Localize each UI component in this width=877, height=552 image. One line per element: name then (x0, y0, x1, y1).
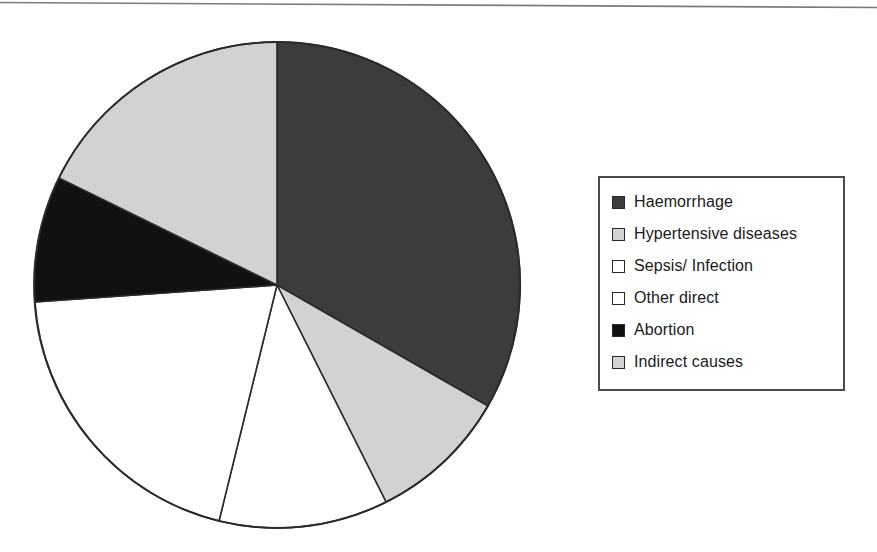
pie-slices (34, 42, 520, 528)
legend-label-sepsis-infection: Sepsis/ Infection (634, 258, 753, 274)
legend-swatch-haemorrhage (612, 196, 625, 209)
legend-item-other-direct[interactable]: Other direct (612, 282, 843, 314)
legend-label-indirect-causes: Indirect causes (634, 354, 743, 370)
legend-swatch-other-direct (612, 292, 625, 305)
legend-label-abortion: Abortion (634, 322, 694, 338)
legend-item-hypertensive-diseases[interactable]: Hypertensive diseases (612, 218, 843, 250)
legend-item-sepsis-infection[interactable]: Sepsis/ Infection (612, 250, 843, 282)
legend-label-hypertensive-diseases: Hypertensive diseases (634, 226, 797, 242)
chart-legend: Haemorrhage Hypertensive diseases Sepsis… (598, 176, 845, 391)
pie-chart (30, 34, 530, 536)
legend-swatch-sepsis-infection (612, 260, 625, 273)
legend-label-haemorrhage: Haemorrhage (634, 194, 733, 210)
figure-root: Haemorrhage Hypertensive diseases Sepsis… (0, 0, 877, 552)
legend-swatch-indirect-causes (612, 356, 625, 369)
legend-item-haemorrhage[interactable]: Haemorrhage (612, 186, 843, 218)
legend-swatch-hypertensive-diseases (612, 228, 625, 241)
legend-item-indirect-causes[interactable]: Indirect causes (612, 346, 843, 378)
legend-swatch-abortion (612, 324, 625, 337)
scan-artifact-rule (0, 0, 877, 12)
legend-label-other-direct: Other direct (634, 290, 719, 306)
legend-item-abortion[interactable]: Abortion (612, 314, 843, 346)
